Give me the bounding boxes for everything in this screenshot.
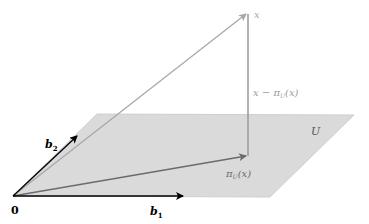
projection-label: πU(x) — [225, 168, 251, 180]
residual-label: x − πU(x) — [253, 87, 299, 99]
x-label: x — [254, 9, 260, 20]
b2-label: b2 — [45, 138, 58, 153]
b1-label: b1 — [150, 205, 163, 220]
origin-label: 0 — [11, 204, 19, 217]
projection-diagram: 0 b1 b2 x x − πU(x) πU(x) U — [0, 0, 369, 224]
subspace-label: U — [311, 125, 321, 138]
